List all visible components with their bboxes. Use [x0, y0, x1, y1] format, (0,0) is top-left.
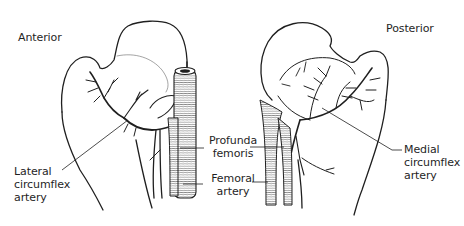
anterior-femoral-artery-vessel [168, 68, 196, 199]
profunda-femoris-label: Profunda femoris [203, 134, 263, 160]
femoral-artery-label: Femoral artery [203, 172, 263, 198]
posterior-vessels [260, 100, 292, 205]
medial-circumflex-artery-label: Medial circumflex artery [404, 143, 460, 182]
lateral-circumflex-artery-label: Lateral circumflex artery [14, 165, 70, 204]
femoral-head-blood-supply-diagram: Anterior Posterior Lateral circumflex ar… [0, 0, 464, 226]
posterior-view-title: Posterior [386, 22, 434, 35]
anterior-view-title: Anterior [18, 31, 62, 44]
anterior-femur [62, 21, 187, 210]
